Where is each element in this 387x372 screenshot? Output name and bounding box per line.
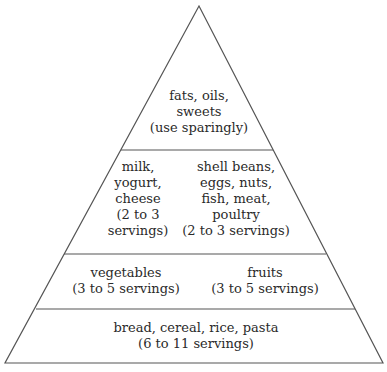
label-line: fish, meat, [182,191,290,207]
label-line: servings) [108,223,169,239]
tier-fruits: fruits (3 to 5 servings) [211,265,319,297]
tier-dairy: milk, yogurt, cheese (2 to 3 servings) [108,159,169,239]
tier-vegetables: vegetables (3 to 5 servings) [72,265,180,297]
label-line: yogurt, [108,175,169,191]
label-line: cheese [108,191,169,207]
label-line: fruits [211,265,319,281]
label-line: sweets [150,104,248,120]
label-line: eggs, nuts, [182,175,290,191]
tier-grains: bread, cereal, rice, pasta (6 to 11 serv… [114,320,279,352]
tier-protein: shell beans, eggs, nuts, fish, meat, pou… [182,159,290,239]
label-line: (use sparingly) [150,120,248,136]
label-line: (3 to 5 servings) [211,281,319,297]
label-line: shell beans, [182,159,290,175]
label-line: (2 to 3 [108,207,169,223]
label-line: (2 to 3 servings) [182,223,290,239]
label-line: (6 to 11 servings) [114,336,279,352]
label-line: milk, [108,159,169,175]
label-line: vegetables [72,265,180,281]
label-line: (3 to 5 servings) [72,281,180,297]
label-line: fats, oils, [150,88,248,104]
label-line: bread, cereal, rice, pasta [114,320,279,336]
tier-fats-oils-sweets: fats, oils, sweets (use sparingly) [150,88,248,136]
label-line: poultry [182,207,290,223]
